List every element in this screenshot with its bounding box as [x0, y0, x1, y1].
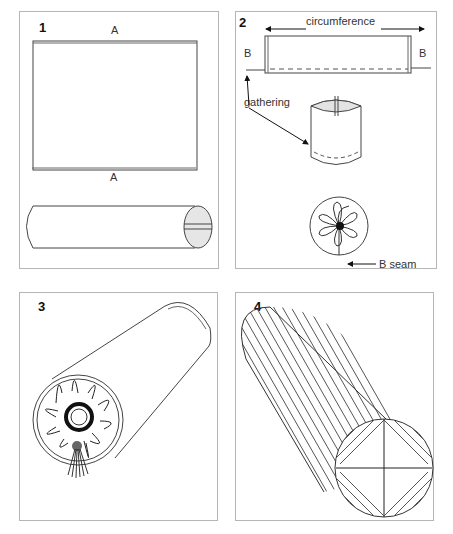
gathering-diagram — [236, 12, 438, 270]
fabric-rectangle-and-tube-drawing — [20, 12, 220, 270]
finished-bolster-with-tassel — [20, 293, 219, 522]
pleated-bolster-drawing — [236, 293, 435, 522]
panel-1: 1 A A — [19, 11, 219, 269]
panel-3: 3 — [19, 292, 218, 521]
panel-4: 4 — [235, 292, 434, 521]
panel-2: 2 circumference B B gathering B seam — [235, 11, 437, 269]
